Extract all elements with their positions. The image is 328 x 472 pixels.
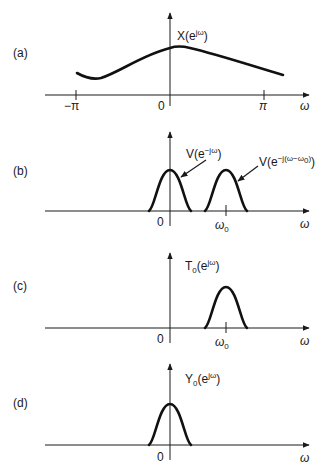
omega-axis-label-c: ω xyxy=(300,334,309,348)
tick-label-omega0-b: ω0 xyxy=(215,218,229,234)
t0-spectrum-curve xyxy=(205,287,247,328)
tick-label-zero-a: 0 xyxy=(158,99,165,113)
shifted-function-label-b: V(e−j(ω−ω0)) xyxy=(259,154,315,169)
arrow-to-shifted-curve xyxy=(238,166,258,181)
panel-d: (d) Y0(ejω) 0 ω xyxy=(13,364,309,465)
function-label-c: T0(ejω) xyxy=(185,258,220,275)
omega-axis-label-d: ω xyxy=(300,451,309,465)
tick-label-minus-pi: −π xyxy=(64,99,79,113)
tick-label-zero-c: 0 xyxy=(157,332,164,346)
panel-a: (a) −π 0 π ω X(ejω) xyxy=(13,13,309,113)
panel-label-b: (b) xyxy=(13,164,28,178)
x-spectrum-curve xyxy=(77,47,283,79)
function-label-a: X(ejω) xyxy=(177,28,208,43)
panel-label-d: (d) xyxy=(13,396,28,410)
tick-label-omega0-c: ω0 xyxy=(215,335,229,351)
tick-label-pi: π xyxy=(259,99,268,113)
panel-label-a: (a) xyxy=(13,46,28,60)
panel-label-c: (c) xyxy=(13,279,27,293)
omega-axis-label-a: ω xyxy=(300,99,309,113)
panel-c: (c) T0(ejω) 0 ω0 ω xyxy=(13,253,309,351)
v-shifted-spectrum-curve xyxy=(205,170,247,211)
tick-label-zero-b: 0 xyxy=(157,215,164,229)
tick-label-zero-d: 0 xyxy=(157,450,164,464)
function-label-b: V(e−jω) xyxy=(186,146,221,161)
panel-b: (b) V(e−jω) V(e−j(ω−ω0)) 0 ω0 ω xyxy=(13,132,315,234)
omega-axis-label-b: ω xyxy=(300,217,309,231)
arrow-to-v-curve xyxy=(181,160,206,177)
spectrum-diagram: (a) −π 0 π ω X(ejω) (b) V(e−jω) V(e−j(ω−… xyxy=(0,0,328,472)
function-label-d: Y0(ejω) xyxy=(185,371,220,388)
